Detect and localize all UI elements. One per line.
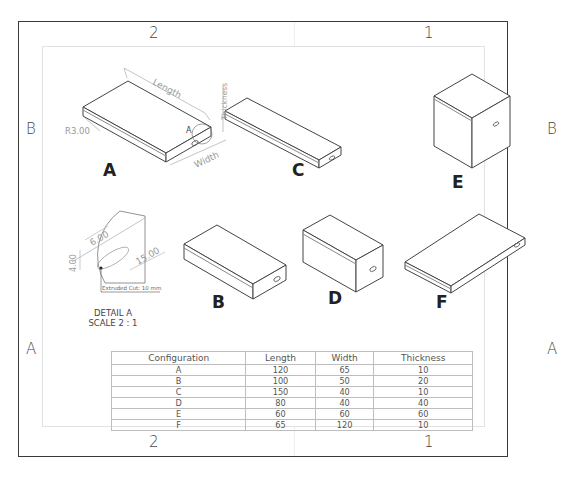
cell-config: E bbox=[112, 409, 246, 420]
cell-width: 60 bbox=[315, 409, 374, 420]
cell-thickness: 10 bbox=[374, 420, 473, 431]
cell-length: 150 bbox=[246, 387, 315, 398]
cell-width: 40 bbox=[315, 398, 374, 409]
header-thickness: Thickness bbox=[374, 352, 473, 365]
iso-view-a bbox=[83, 81, 211, 162]
cell-width: 65 bbox=[315, 365, 374, 376]
table-row: F 65 120 10 bbox=[112, 420, 473, 431]
view-label-f: F bbox=[436, 292, 448, 312]
configuration-table: Configuration Length Width Thickness A 1… bbox=[111, 351, 473, 431]
table-row: E 60 60 60 bbox=[112, 409, 473, 420]
cell-width: 120 bbox=[315, 420, 374, 431]
cell-thickness: 60 bbox=[374, 409, 473, 420]
cell-thickness: 20 bbox=[374, 376, 473, 387]
header-configuration: Configuration bbox=[112, 352, 246, 365]
cell-thickness: 10 bbox=[374, 365, 473, 376]
cell-length: 80 bbox=[246, 398, 315, 409]
iso-view-c bbox=[225, 98, 341, 168]
cell-config: B bbox=[112, 376, 246, 387]
detail-caption: DETAIL A SCALE 2 : 1 bbox=[68, 308, 158, 328]
view-label-c: C bbox=[292, 160, 304, 180]
cell-width: 40 bbox=[315, 387, 374, 398]
cell-config: F bbox=[112, 420, 246, 431]
view-label-d: D bbox=[328, 288, 342, 308]
header-width: Width bbox=[315, 352, 374, 365]
iso-view-d bbox=[303, 215, 383, 292]
dim-radius-label: R3.00 bbox=[65, 126, 90, 136]
detail-note: Extruded Cut: 10 mm bbox=[102, 285, 161, 291]
cell-width: 50 bbox=[315, 376, 374, 387]
detail-caption-title: DETAIL A bbox=[68, 308, 158, 318]
cell-length: 60 bbox=[246, 409, 315, 420]
view-label-a: A bbox=[103, 160, 116, 180]
table-row: B 100 50 20 bbox=[112, 376, 473, 387]
table-row: C 150 40 10 bbox=[112, 387, 473, 398]
view-label-b: B bbox=[212, 292, 225, 312]
cell-thickness: 40 bbox=[374, 398, 473, 409]
table-row: D 80 40 40 bbox=[112, 398, 473, 409]
view-label-e: E bbox=[452, 172, 464, 192]
table-row: A 120 65 10 bbox=[112, 365, 473, 376]
dim-thickness-label: Thickness bbox=[220, 83, 229, 121]
iso-view-b bbox=[184, 225, 286, 299]
cell-thickness: 10 bbox=[374, 387, 473, 398]
detail-dim-4: 4.00 bbox=[69, 254, 78, 272]
table-header-row: Configuration Length Width Thickness bbox=[112, 352, 473, 365]
cell-length: 120 bbox=[246, 365, 315, 376]
header-length: Length bbox=[246, 352, 315, 365]
cell-length: 100 bbox=[246, 376, 315, 387]
detail-caption-scale: SCALE 2 : 1 bbox=[68, 318, 158, 328]
cell-length: 65 bbox=[246, 420, 315, 431]
iso-view-f bbox=[405, 214, 525, 293]
cell-config: D bbox=[112, 398, 246, 409]
cell-config: A bbox=[112, 365, 246, 376]
detail-marker-label: A bbox=[186, 126, 192, 135]
cell-config: C bbox=[112, 387, 246, 398]
iso-view-e bbox=[434, 74, 510, 168]
